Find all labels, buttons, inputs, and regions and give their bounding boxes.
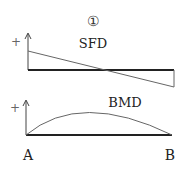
sfd-title: SFD bbox=[79, 36, 107, 51]
bmd-title: BMD bbox=[108, 95, 141, 110]
figure-number: ① bbox=[87, 13, 100, 29]
bmd-moment-curve bbox=[26, 113, 172, 136]
sfd-bmd-diagram: ① SFD + BMD + A B bbox=[0, 0, 182, 170]
support-b-label: B bbox=[165, 147, 175, 163]
bmd-plus-sign: + bbox=[10, 101, 20, 115]
sfd-plus-sign: + bbox=[11, 35, 21, 49]
bmd-panel: BMD + A B bbox=[10, 95, 175, 163]
sfd-panel: ① SFD + bbox=[11, 13, 174, 87]
support-a-label: A bbox=[22, 147, 34, 163]
